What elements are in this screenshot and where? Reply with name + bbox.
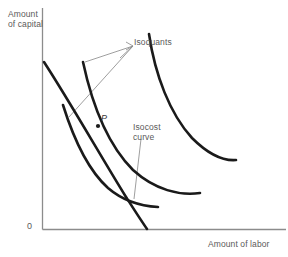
tangency-point-marker <box>96 124 100 128</box>
isoquants-annotation-label: Isoquants <box>134 37 172 47</box>
isoquant-curve-high <box>149 34 236 160</box>
origin-label: 0 <box>27 221 32 231</box>
isocost-leader-1 <box>134 139 141 199</box>
isocost-leader-line <box>134 139 141 199</box>
isocost-annotation-label: Isocost curve <box>133 122 161 142</box>
tangency-point-label: P <box>101 113 107 123</box>
isoquant-isocost-figure: Amount of capital Amount of labor 0 Isoq… <box>0 0 288 257</box>
isoquant-leader-lines <box>69 42 133 117</box>
y-axis-label: Amount of capital <box>8 9 43 29</box>
x-axis-label: Amount of labor <box>208 239 270 249</box>
isoquant-curve-low <box>63 105 158 207</box>
isoquant-curves <box>63 34 236 207</box>
